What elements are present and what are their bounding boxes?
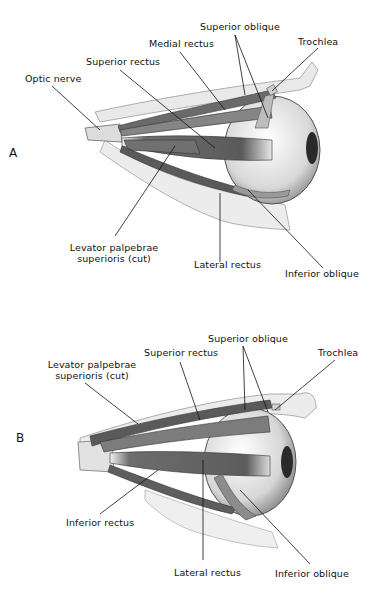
- panel-letter-a: A: [9, 146, 17, 160]
- label-lateral-rectus: Lateral rectus: [194, 259, 261, 270]
- label-levator-line1: Levator palpebrae: [68, 242, 160, 253]
- label-levator-palpebrae: Levator palpebrae superioris (cut): [46, 359, 138, 381]
- label-inferior-oblique: Inferior oblique: [275, 568, 349, 579]
- label-trochlea: Trochlea: [298, 36, 338, 47]
- label-levator-line1: Levator palpebrae: [46, 359, 138, 370]
- eye-muscles-lateral-view-illustration: [0, 300, 385, 605]
- label-superior-oblique: Superior oblique: [208, 333, 288, 344]
- label-inferior-rectus: Inferior rectus: [66, 517, 134, 528]
- figure-a: A Optic nerve Superior rectus Medial rec…: [0, 0, 385, 300]
- panel-letter-b: B: [16, 431, 24, 445]
- label-superior-rectus: Superior rectus: [144, 347, 218, 358]
- label-inferior-oblique: Inferior oblique: [285, 268, 359, 279]
- label-lateral-rectus: Lateral rectus: [174, 567, 241, 578]
- label-trochlea: Trochlea: [318, 347, 358, 358]
- label-medial-rectus: Medial rectus: [149, 38, 214, 49]
- label-superior-rectus: Superior rectus: [86, 56, 160, 67]
- label-levator-line2: superioris (cut): [46, 370, 138, 381]
- label-optic-nerve: Optic nerve: [25, 73, 81, 84]
- label-levator-line2: superioris (cut): [68, 253, 160, 264]
- label-levator-palpebrae: Levator palpebrae superioris (cut): [68, 242, 160, 264]
- label-superior-oblique: Superior oblique: [200, 21, 280, 32]
- figure-b: B Levator palpebrae superioris (cut) Sup…: [0, 300, 385, 605]
